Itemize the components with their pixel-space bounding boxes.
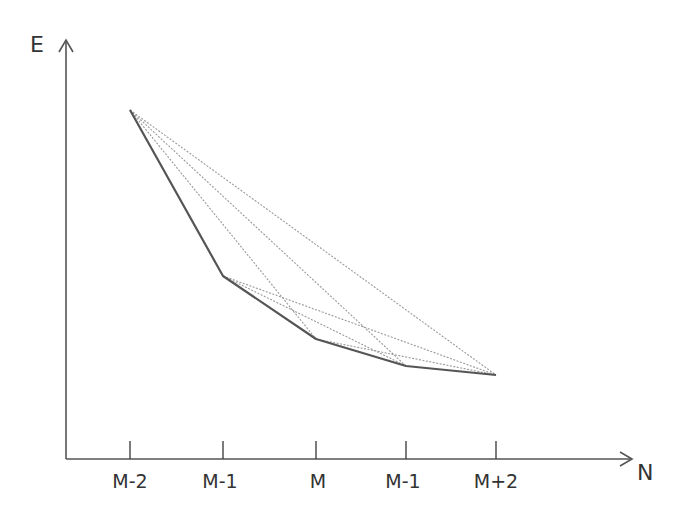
chord-p0-p4 bbox=[130, 110, 496, 375]
chord-p0-p2 bbox=[130, 110, 316, 339]
x-axis-label: N bbox=[637, 460, 653, 485]
tick-label: M bbox=[310, 470, 326, 492]
energy-vs-n-diagram: E N M-2 M-1 M M-1 M+2 bbox=[0, 0, 686, 517]
chord-p2-p4 bbox=[316, 339, 496, 375]
dotted-chords bbox=[130, 110, 496, 375]
tick-label: M-2 bbox=[112, 470, 147, 492]
axes: E N bbox=[30, 32, 653, 485]
x-ticks bbox=[130, 441, 496, 459]
chord-p1-p4 bbox=[223, 276, 496, 375]
tick-label: M+2 bbox=[474, 470, 518, 492]
x-tick-labels: M-2 M-1 M M-1 M+2 bbox=[112, 470, 518, 492]
chord-p1-p3 bbox=[223, 276, 406, 366]
tick-label: M-1 bbox=[202, 470, 237, 492]
tick-label: M-1 bbox=[385, 470, 420, 492]
y-axis-label: E bbox=[30, 32, 44, 57]
